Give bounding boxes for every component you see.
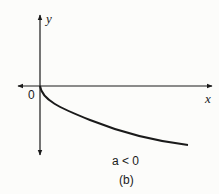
figure-caption: (b) (119, 174, 134, 186)
origin-label: 0 (28, 89, 35, 101)
function-curve (40, 86, 188, 145)
x-axis-label: x (205, 92, 211, 105)
condition-label: a < 0 (112, 155, 139, 167)
y-axis-label: y (46, 12, 52, 25)
